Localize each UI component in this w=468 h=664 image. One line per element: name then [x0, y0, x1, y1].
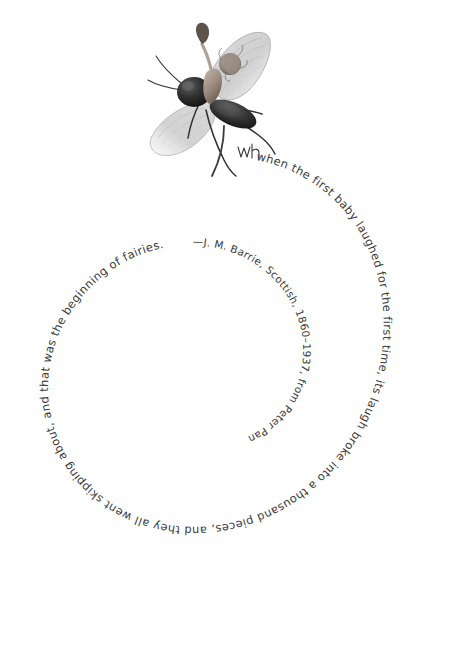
- spiral-quote: when the first baby laughed for the firs…: [0, 0, 468, 664]
- attribution-textpath: —J. M. Barrie, Scottish, 1860–1937, from…: [192, 235, 313, 446]
- quote-attribution: —J. M. Barrie, Scottish, 1860–1937, from…: [192, 235, 313, 446]
- quote-textpath: when the first baby laughed for the firs…: [37, 149, 395, 538]
- poster-page: when the first baby laughed for the firs…: [0, 0, 468, 664]
- quote-text: when the first baby laughed for the firs…: [37, 149, 395, 538]
